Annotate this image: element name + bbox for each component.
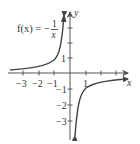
x-tick-label-neg3: −3: [16, 78, 27, 89]
y-tick-label-neg3: −3: [56, 116, 67, 127]
y-tick-label-neg2: −2: [56, 100, 67, 111]
x-axis-label: x: [126, 77, 132, 88]
x-tick-label-neg2: −2: [32, 78, 43, 89]
y-tick-label-1: 1: [61, 53, 66, 64]
function-label: f(x) = − 1 x: [17, 19, 58, 40]
left-branch-arrow-top: [61, 13, 67, 22]
fraction-denominator: x: [51, 30, 57, 40]
function-graph: x y −3 −2 −1 1 1 −1 −2 −3 f(x) = − 1 x: [0, 0, 140, 144]
function-label-prefix: f(x) = −: [17, 23, 50, 35]
y-tick-label-neg1: −1: [56, 84, 67, 95]
x-tick-label-1: 1: [83, 78, 88, 89]
y-axis-label: y: [73, 7, 79, 18]
fraction-numerator: 1: [52, 19, 57, 29]
